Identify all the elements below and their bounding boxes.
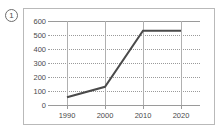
figure-number-badge: 1: [5, 9, 18, 22]
x-tick-label-2010: 2010: [126, 112, 160, 120]
x-tick-mark-1990: [67, 105, 68, 109]
y-tick-label-300: 300: [24, 60, 46, 68]
x-tick-label-2000: 2000: [88, 112, 122, 120]
x-tick-label-2020: 2020: [164, 112, 198, 120]
data-series-line: [48, 21, 200, 105]
y-tick-label-200: 200: [24, 74, 46, 82]
x-axis-labels: 1990 2000 2010 2020: [48, 112, 200, 124]
x-tick-label-1990: 1990: [50, 112, 84, 120]
x-tick-mark-2000: [105, 105, 106, 109]
y-tick-label-600: 600: [24, 18, 46, 26]
y-tick-label-0: 0: [24, 102, 46, 110]
series-1-polyline: [67, 31, 181, 98]
y-axis-labels: 600 500 400 300 200 100 0: [22, 21, 46, 105]
figure-container: 1 600 500 400 300 200 100 0 1990 2000 20…: [0, 0, 219, 132]
x-tick-mark-2020: [181, 105, 182, 109]
y-tick-label-100: 100: [24, 88, 46, 96]
gridline-y-0: [48, 105, 200, 106]
y-tick-label-400: 400: [24, 46, 46, 54]
y-tick-label-500: 500: [24, 32, 46, 40]
x-tick-mark-2010: [143, 105, 144, 109]
